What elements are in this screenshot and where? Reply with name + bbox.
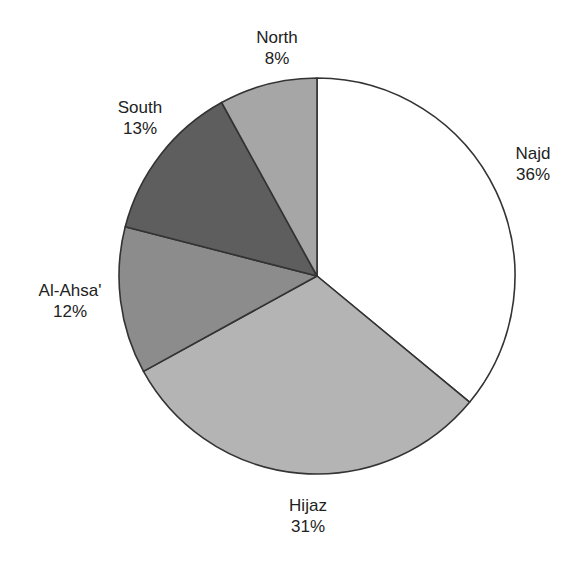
label-alahsa: Al-Ahsa' 12% [20,280,120,322]
label-south-pct: 13% [100,118,180,139]
label-alahsa-name: Al-Ahsa' [20,280,120,301]
label-alahsa-pct: 12% [20,301,120,322]
label-north: North 8% [237,27,317,69]
label-hijaz-pct: 31% [268,516,348,537]
label-najd: Najd 36% [493,143,573,185]
label-south: South 13% [100,97,180,139]
label-north-pct: 8% [237,48,317,69]
label-hijaz-name: Hijaz [268,495,348,516]
label-najd-pct: 36% [493,164,573,185]
label-north-name: North [237,27,317,48]
label-najd-name: Najd [493,143,573,164]
label-south-name: South [100,97,180,118]
label-hijaz: Hijaz 31% [268,495,348,537]
